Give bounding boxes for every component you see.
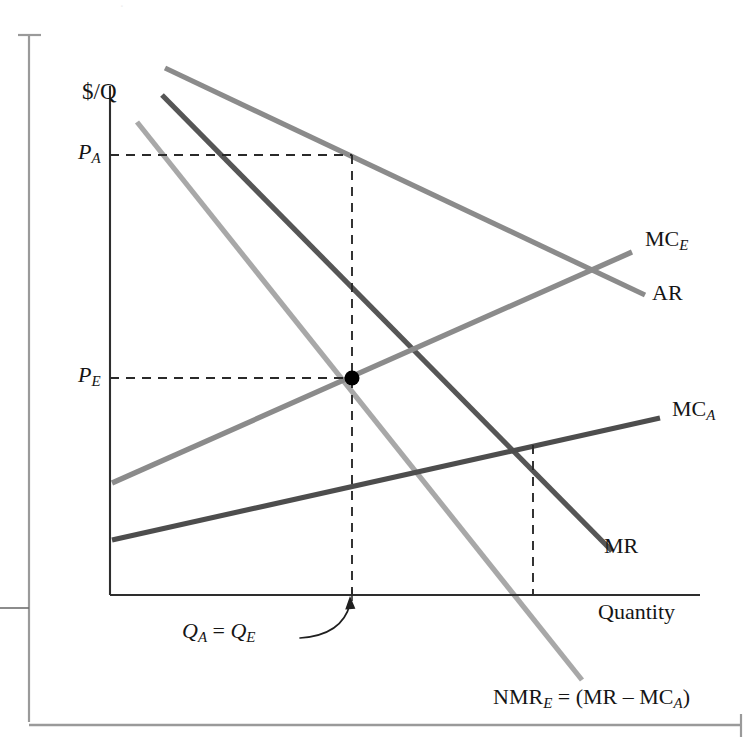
economics-diagram [0, 0, 752, 750]
x-axis-label: Quantity [598, 601, 675, 623]
equilibrium-marker [345, 371, 360, 386]
curve-label-MCA: MCA [672, 398, 715, 423]
price-tick-label-PE: PE [78, 364, 101, 389]
price-tick-label-PA: PA [78, 141, 101, 166]
page-rules [0, 35, 742, 737]
quantity-annotation-label: QA = QE [182, 620, 255, 645]
curve-mr [162, 95, 612, 551]
curve-label-MR: MR [604, 535, 638, 557]
guide-lines [110, 155, 533, 595]
qa-qe-arrow [300, 596, 355, 638]
y-axis-label: $/Q [82, 80, 117, 103]
nmre-curve-label: NMRE = (MR – MCA) [493, 686, 690, 711]
figure-page: . $/Q PA [0, 0, 752, 750]
curve-ar [165, 68, 645, 295]
curve-label-MCE: MCE [645, 228, 688, 253]
curve-label-AR: AR [652, 282, 683, 304]
curve-mc-e [112, 252, 632, 483]
curve-nmr-e [137, 122, 582, 680]
curves [112, 68, 660, 680]
equilibrium-point [345, 371, 360, 386]
